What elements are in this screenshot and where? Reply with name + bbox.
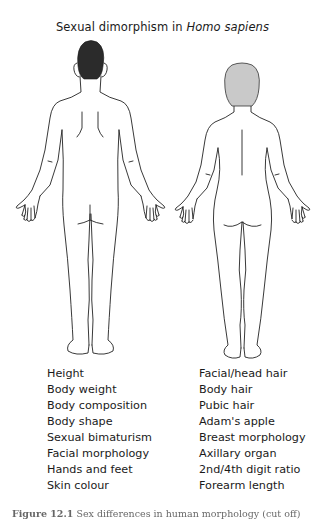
traits-right-column: Facial/head hair Body hair Pubic hair Ad…	[199, 366, 306, 494]
trait-item: Pubic hair	[199, 398, 306, 414]
female-figure	[175, 104, 309, 358]
trait-item: Body hair	[199, 382, 306, 398]
trait-item: Facial morphology	[47, 446, 152, 462]
male-hair	[78, 41, 104, 80]
caption-text: Sex differences in human morphology (cut…	[76, 508, 300, 519]
male-figure	[16, 63, 164, 354]
trait-item: Body composition	[47, 398, 152, 414]
trait-item: Sexual bimaturism	[47, 430, 152, 446]
caption-label: Figure 12.1	[12, 508, 73, 519]
trait-item: Adam's apple	[199, 414, 306, 430]
trait-item: Body weight	[47, 382, 152, 398]
trait-item: Height	[47, 366, 152, 382]
figure-caption: Figure 12.1 Sex differences in human mor…	[12, 508, 300, 519]
trait-item: Axillary organ	[199, 446, 306, 462]
trait-item: Skin colour	[47, 478, 152, 494]
female-hair	[225, 63, 260, 106]
traits-left-column: Height Body weight Body composition Body…	[47, 366, 152, 494]
trait-item: Forearm length	[199, 478, 306, 494]
trait-item: Body shape	[47, 414, 152, 430]
trait-item: Hands and feet	[47, 462, 152, 478]
trait-item: Facial/head hair	[199, 366, 306, 382]
trait-item: 2nd/4th digit ratio	[199, 462, 306, 478]
trait-item: Breast morphology	[199, 430, 306, 446]
